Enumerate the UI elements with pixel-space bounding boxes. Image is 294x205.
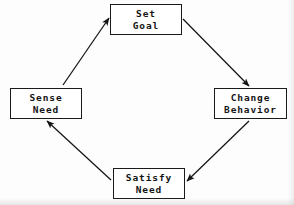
node-change-behavior-line2: Behavior [224, 104, 277, 115]
edge-goal-to-change [183, 19, 249, 86]
node-change-behavior-line1: Change [231, 92, 271, 103]
node-satisfy-need-line1: Satisfy [126, 172, 172, 183]
node-satisfy-need-line2: Need [136, 184, 162, 195]
node-set-goal-line2: Goal [133, 20, 159, 31]
edge-sense-to-goal [63, 18, 109, 85]
edge-satisfy-to-sense [47, 121, 111, 180]
edge-change-to-satisfy [187, 121, 249, 181]
node-sense-need[interactable]: Sense Need [10, 88, 82, 119]
node-change-behavior[interactable]: Change Behavior [214, 88, 287, 119]
node-set-goal-line1: Set [136, 8, 156, 19]
node-sense-need-line1: Sense [29, 92, 62, 103]
node-satisfy-need[interactable]: Satisfy Need [113, 168, 185, 199]
node-sense-need-line2: Need [33, 104, 59, 115]
cycle-diagram: Set Goal Change Behavior Satisfy Need Se… [0, 0, 294, 205]
node-set-goal[interactable]: Set Goal [110, 4, 182, 35]
